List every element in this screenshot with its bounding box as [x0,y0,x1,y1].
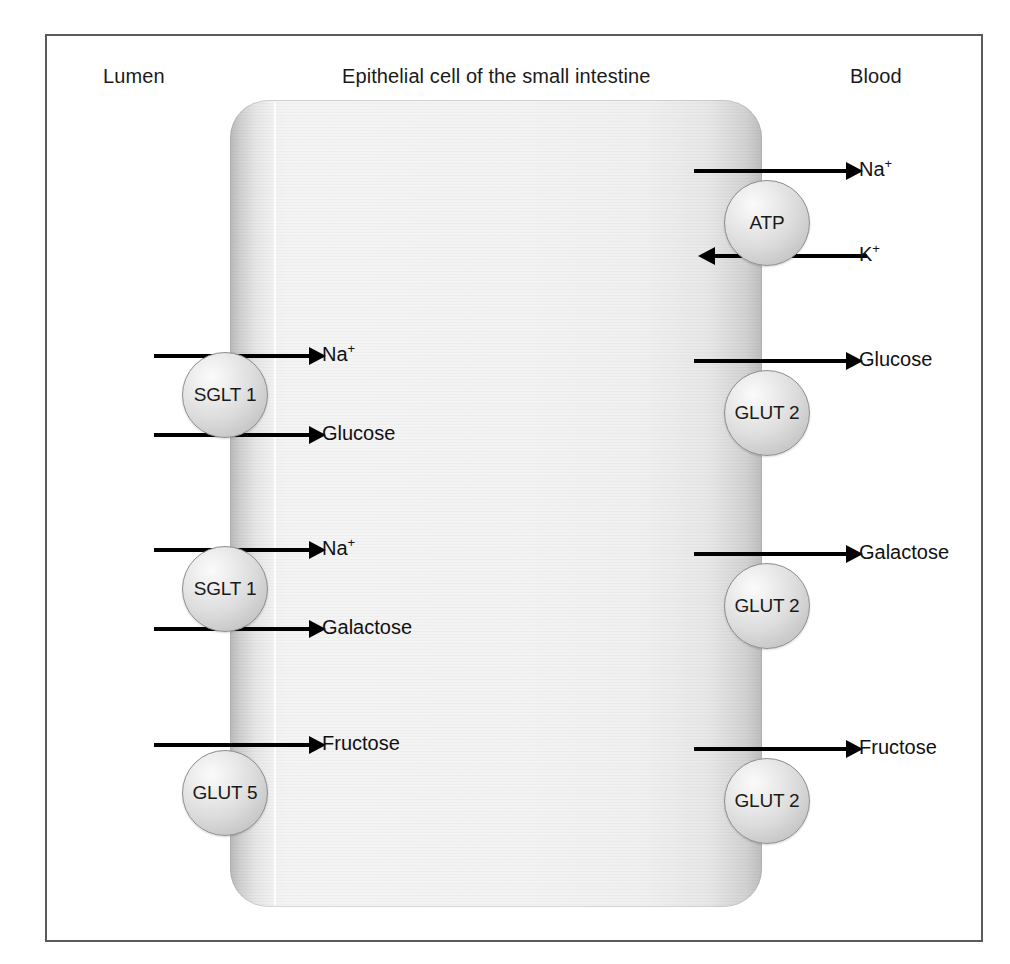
label-atp-potassium-text: K [859,243,872,265]
label-atp-sodium-text: Na [859,158,885,180]
transporter-sglt1-galactose-label: SGLT 1 [194,578,257,600]
transporter-sglt1-glucose[interactable]: SGLT 1 [182,352,268,438]
arrow-glut2-galactose-out [694,552,847,556]
transporter-atpase-label: ATP [750,212,785,234]
label-atp-sodium-charge: + [885,156,893,171]
label-sglt1-a-sodium: Na+ [322,343,355,366]
cell-inner-seam [274,102,276,905]
transporter-sglt1-galactose[interactable]: SGLT 1 [182,546,268,632]
transporter-glut2-galactose-label: GLUT 2 [735,595,800,617]
transporter-glut5-fructose-label: GLUT 5 [193,782,258,804]
transporter-glut5-fructose[interactable]: GLUT 5 [182,750,268,836]
arrow-glut5-fructose-in [154,743,310,747]
label-sglt1-a-sodium-text: Na [322,343,348,365]
label-glut2-galactose: Galactose [859,541,949,564]
transporter-glut2-fructose[interactable]: GLUT 2 [724,758,810,844]
arrow-atp-sodium-out [694,169,847,173]
caption-lumen: Lumen [103,65,165,88]
arrow-glut2-glucose-out [694,359,847,363]
epithelial-cell-body [230,100,762,907]
transporter-atpase[interactable]: ATP [724,180,810,266]
label-atp-potassium-charge: + [872,241,880,256]
label-sglt1-b-galactose: Galactose [322,616,412,639]
arrow-glut2-fructose-out [694,747,847,751]
transporter-sglt1-glucose-label: SGLT 1 [194,384,257,406]
sugar-absorption-figure: Lumen Epithelial cell of the small intes… [0,0,1010,964]
label-glut2-glucose: Glucose [859,348,932,371]
label-sglt1-b-sodium-text: Na [322,537,348,559]
caption-epithelial-cell: Epithelial cell of the small intestine [342,65,650,88]
label-glut5-fructose: Fructose [322,732,400,755]
transporter-glut2-glucose[interactable]: GLUT 2 [724,370,810,456]
transporter-glut2-galactose[interactable]: GLUT 2 [724,563,810,649]
label-sglt1-b-sodium-charge: + [348,535,356,550]
label-sglt1-a-sodium-charge: + [348,341,356,356]
label-sglt1-b-sodium: Na+ [322,537,355,560]
label-atp-sodium: Na+ [859,158,892,181]
label-atp-potassium: K+ [859,243,880,266]
label-sglt1-a-glucose: Glucose [322,422,395,445]
figure-frame: Lumen Epithelial cell of the small intes… [45,34,983,942]
cell-texture [230,100,762,907]
transporter-glut2-fructose-label: GLUT 2 [735,790,800,812]
label-glut2-fructose: Fructose [859,736,937,759]
transporter-glut2-glucose-label: GLUT 2 [735,402,800,424]
caption-blood: Blood [850,65,902,88]
